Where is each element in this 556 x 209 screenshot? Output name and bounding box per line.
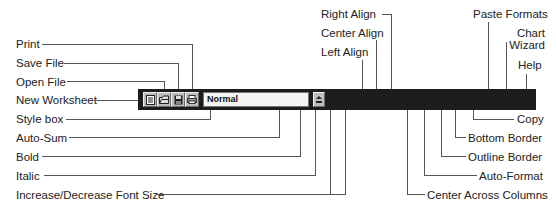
label-paste-formats: Paste Formats: [473, 8, 548, 21]
label-center-align: Center Align: [321, 27, 384, 40]
style-dropdown-button[interactable]: [313, 92, 325, 107]
leader-italic-v: [315, 110, 316, 176]
label-copy: Copy: [517, 113, 544, 126]
leader-fontsize-h: [157, 194, 345, 195]
leader-print-h: [42, 44, 192, 45]
leader-fontsize-v1: [330, 110, 331, 195]
label-bold: Bold: [16, 151, 39, 164]
label-style-box: Style box: [16, 113, 63, 126]
label-left-align: Left Align: [321, 46, 368, 59]
printer-icon: [187, 95, 197, 104]
label-font-size: Increase/Decrease Font Size: [16, 189, 164, 202]
leader-center-align-v: [376, 40, 377, 90]
leader-fontsize-v2: [345, 110, 346, 195]
leader-bold-v: [300, 110, 301, 157]
leader-copy-v: [473, 110, 474, 119]
leader-chart-wizard-v: [506, 42, 507, 90]
label-open-file: Open File: [16, 76, 66, 89]
label-chart-wizard-2: Wizard: [505, 39, 545, 52]
leader-outline-border-h: [441, 156, 466, 157]
label-new-worksheet: New Worksheet: [16, 94, 97, 107]
print-button[interactable]: [185, 92, 199, 107]
label-auto-sum: Auto-Sum: [16, 132, 67, 145]
leader-print-v: [192, 44, 193, 90]
label-print: Print: [16, 38, 40, 51]
leader-center-across-v: [407, 110, 408, 195]
leader-right-align-v: [391, 14, 392, 90]
leader-bold-h: [42, 156, 300, 157]
leader-save-h: [64, 63, 178, 64]
leader-style-v: [210, 110, 211, 120]
leader-left-align-v: [362, 60, 363, 90]
folder-open-icon: [159, 95, 169, 104]
label-italic: Italic: [16, 170, 40, 183]
label-outline-border: Outline Border: [468, 151, 542, 164]
standard-toolbar: Normal: [138, 89, 536, 110]
open-file-button[interactable]: [157, 92, 171, 107]
new-sheet-icon: [146, 95, 155, 105]
leader-autosum-h: [69, 137, 279, 138]
leader-auto-format-v: [424, 110, 425, 176]
save-file-button[interactable]: [171, 92, 185, 107]
label-save-file: Save File: [16, 57, 64, 70]
leader-center-across-h: [407, 194, 425, 195]
leader-help-v: [526, 74, 527, 90]
label-right-align: Right Align: [321, 8, 376, 21]
label-center-across-columns: Center Across Columns: [427, 189, 548, 202]
leader-style-h: [66, 119, 210, 120]
style-box[interactable]: Normal: [203, 92, 309, 107]
leader-bottom-border-v: [455, 110, 456, 138]
leader-new-h: [94, 100, 144, 101]
label-help: Help: [518, 59, 542, 72]
leader-copy-h: [473, 119, 514, 120]
leader-auto-format-h: [424, 175, 477, 176]
floppy-disk-icon: [174, 95, 183, 105]
leader-italic-h: [44, 175, 315, 176]
dropdown-arrow-icon: [316, 96, 322, 104]
leader-autosum-v: [279, 110, 280, 138]
leader-paste-formats-v: [488, 22, 489, 90]
leader-save-v: [178, 63, 179, 90]
leader-bottom-border-h: [455, 137, 466, 138]
leader-outline-border-v: [441, 110, 442, 157]
leader-open-h: [67, 81, 164, 82]
new-worksheet-button[interactable]: [143, 92, 157, 107]
label-auto-format: Auto-Format: [479, 170, 543, 183]
label-bottom-border: Bottom Border: [468, 132, 542, 145]
leader-right-align-h: [382, 14, 391, 15]
